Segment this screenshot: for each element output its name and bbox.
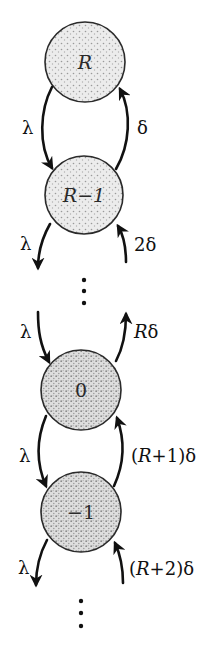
state-minus-1: −1 [41, 472, 121, 552]
rate-R: R [137, 445, 152, 466]
arrow-down-to-0 [38, 312, 49, 362]
state-label-0: 0 [75, 379, 87, 401]
rate-rest: +2)δ [150, 558, 194, 579]
arrow-minus-1-down [36, 540, 47, 585]
ellipsis-bottom [79, 599, 83, 628]
rate-rest: +1)δ [152, 445, 196, 466]
rate-label-lambda-2: λ [20, 233, 31, 254]
state-label-R-minus-1: R−1 [62, 184, 105, 206]
paren-open: ( [129, 558, 136, 579]
paren-open: ( [131, 445, 138, 466]
rate-delta-suffix: δ [148, 321, 159, 342]
rate-label-lambda-4: λ [19, 445, 30, 466]
state-label-R: R [77, 51, 92, 73]
arrow-0-to-minus-1 [39, 416, 47, 486]
ellipsis-middle [82, 278, 86, 305]
rate-label-lambda-5: λ [18, 557, 29, 578]
state-R-minus-1: R−1 [45, 156, 123, 234]
rate-R: R [133, 321, 148, 342]
state-R: R [45, 22, 125, 102]
rate-label-lambda-3: λ [20, 321, 31, 342]
arrow-R-minus-1-down [38, 224, 50, 268]
rate-label-lambda-1: λ [22, 117, 33, 138]
rate-label-2-delta: 2δ [134, 234, 156, 255]
birth-death-diagram: R R−1 0 −1 λ δ λ 2δ λ Rδ λ (R+1)δ λ (R+2… [0, 0, 220, 654]
rate-label-delta: δ [137, 117, 148, 138]
arrow-up-to-R-minus-1 [118, 226, 126, 262]
arrow-minus-1-to-0 [114, 418, 123, 486]
rate-R: R [135, 558, 150, 579]
arrow-R-to-R-minus-1 [42, 87, 52, 168]
arrow-up-to-minus-1 [115, 543, 123, 583]
arrow-0-up [116, 314, 126, 361]
state-label-minus-1: −1 [67, 501, 95, 523]
rate-label-R-plus-1-delta: (R+1)δ [131, 445, 196, 466]
rate-label-R-plus-2-delta: (R+2)δ [129, 558, 194, 579]
state-0: 0 [41, 350, 121, 430]
rate-label-R-delta: Rδ [133, 321, 158, 342]
arrow-R-minus-1-to-R [116, 89, 128, 169]
